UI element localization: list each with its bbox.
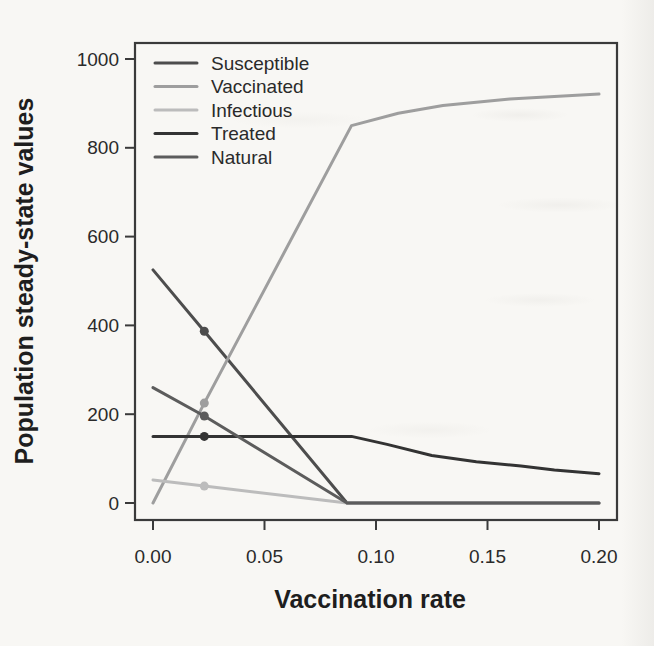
marker-dot-infectious xyxy=(200,482,209,491)
legend-entry-vaccinated: Vaccinated xyxy=(155,76,304,97)
y-tick-label: 800 xyxy=(87,137,119,158)
marker-dot-treated xyxy=(200,432,209,441)
y-tick-label: 1000 xyxy=(77,49,119,70)
x-tick-label: 0.15 xyxy=(469,546,506,567)
legend-label: Natural xyxy=(211,147,272,168)
legend-label: Susceptible xyxy=(211,53,309,74)
x-tick-label: 0.10 xyxy=(358,546,395,567)
marker-dot-natural xyxy=(200,412,209,421)
scanned-book-page: 0.000.050.100.150.2002004006008001000Sus… xyxy=(0,0,654,646)
series-line-infectious xyxy=(153,480,599,503)
x-tick-label: 0.05 xyxy=(246,546,283,567)
population-steady-state-chart: 0.000.050.100.150.2002004006008001000Sus… xyxy=(0,0,654,646)
legend-label: Infectious xyxy=(211,100,292,121)
legend-entry-susceptible: Susceptible xyxy=(155,53,309,74)
y-tick-label: 0 xyxy=(108,493,119,514)
legend-label: Treated xyxy=(211,123,276,144)
series-line-natural xyxy=(153,388,599,503)
y-tick-label: 400 xyxy=(87,315,119,336)
legend-entry-natural: Natural xyxy=(155,147,272,168)
legend-label: Vaccinated xyxy=(211,76,304,97)
plot-box-border xyxy=(135,43,617,520)
x-axis-title: Vaccination rate xyxy=(274,585,466,613)
x-tick-label: 0.00 xyxy=(135,546,172,567)
y-tick-label: 200 xyxy=(87,404,119,425)
y-tick-label: 600 xyxy=(87,226,119,247)
x-tick-label: 0.20 xyxy=(581,546,618,567)
chart-plot-area: 0.000.050.100.150.2002004006008001000Sus… xyxy=(77,43,618,567)
legend-entry-infectious: Infectious xyxy=(155,100,292,121)
series-line-treated xyxy=(153,436,599,473)
marker-dot-vaccinated xyxy=(200,399,209,408)
marker-dot-susceptible xyxy=(200,327,209,336)
y-axis-title: Population steady-state values xyxy=(10,98,38,465)
legend-entry-treated: Treated xyxy=(155,123,276,144)
